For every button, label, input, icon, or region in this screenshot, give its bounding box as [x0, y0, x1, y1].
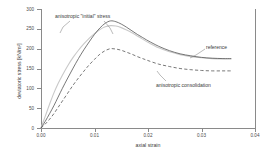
leader-initial-stress-left — [60, 21, 70, 33]
curve-layer — [0, 0, 265, 159]
curve-reference — [41, 21, 231, 128]
leader-consolidation — [157, 71, 166, 81]
curve-anisotropic-consolidation — [41, 49, 231, 128]
leader-initial-stress-right — [104, 21, 113, 34]
annotation-reference: reference — [206, 44, 227, 50]
annotation-leader-lines — [60, 21, 205, 81]
annotation-anisotropic-consolidation: anisotropic consolidation — [156, 82, 211, 88]
deviatoric-stress-chart: 050100150200250300 0.000.010.020.030.04 … — [0, 0, 265, 159]
annotation-anisotropic-initial-stress: anisotropic "initial" stress — [55, 13, 110, 19]
curve-anisotropic-initial-stress — [41, 26, 231, 128]
